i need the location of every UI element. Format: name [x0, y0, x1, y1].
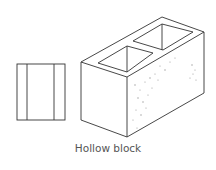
- isometric-block: [81, 17, 204, 137]
- hole-left: [98, 46, 153, 72]
- side-elevation: [17, 64, 65, 120]
- figure-caption: Hollow block: [0, 142, 216, 154]
